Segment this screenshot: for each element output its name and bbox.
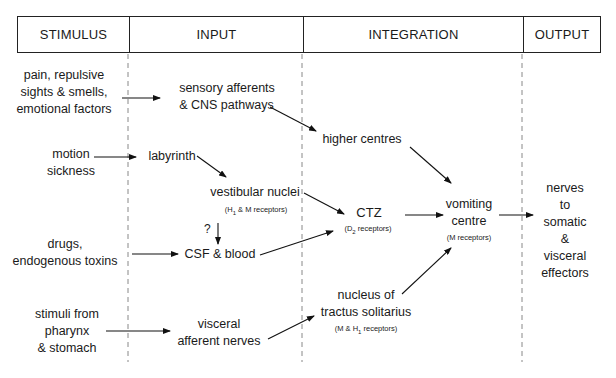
stimulus-drugs-toxins: drugs, endogenous toxins xyxy=(13,236,118,270)
input-csf-blood: CSF & blood xyxy=(185,246,256,263)
vomiting-centre-receptors: (M receptors) xyxy=(447,233,492,242)
ctz-receptors: (D2 receptors) xyxy=(344,224,391,235)
output-nerves-to-effectors: nerves to somatic & visceral effectors xyxy=(540,180,591,282)
integration-ctz: CTZ xyxy=(356,204,381,221)
integration-nucleus-tractus-solitarius: nucleus of tractus solitarius xyxy=(321,287,411,321)
stimulus-pharynx-stomach: stimuli from pharynx & stomach xyxy=(35,306,99,357)
integration-vomiting-centre: vomiting centre xyxy=(446,196,493,230)
stimulus-motion-sickness: motion sickness xyxy=(47,146,95,180)
integration-higher-centres: higher centres xyxy=(322,131,401,148)
input-labyrinth: labyrinth xyxy=(148,148,195,165)
nts-receptors: (M & H1 receptors) xyxy=(335,324,398,335)
vestibular-receptors: (H1 & M receptors) xyxy=(225,205,288,216)
stimulus-pain-emotional: pain, repulsive sights & smells, emotion… xyxy=(16,67,111,118)
uncertain-pathway-mark: ? xyxy=(204,222,211,236)
input-sensory-afferents: sensory afferents & CNS pathways xyxy=(179,80,275,114)
input-visceral-afferent-nerves: visceral afferent nerves xyxy=(177,316,260,350)
input-vestibular-nuclei: vestibular nuclei xyxy=(210,184,300,201)
